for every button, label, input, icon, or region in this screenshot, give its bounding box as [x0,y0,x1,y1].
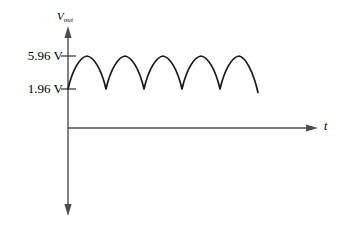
figure-canvas [0,0,347,233]
y-axis-arrowhead-up-icon [64,26,71,38]
y-axis-label: Vout [57,11,73,24]
y-axis-group [64,26,71,216]
ripple-waveform-path [68,56,258,93]
y-axis-label-main: V [57,10,64,22]
y-axis-arrowhead-down-icon [64,204,71,216]
rectifier-output-waveform-figure: Vout t 5.96 V 1.96 V [0,0,347,233]
x-axis-group [68,124,318,131]
x-axis-label: t [324,120,327,132]
tick-label-peak-voltage: 5.96 V [10,49,63,62]
tick-label-valley-voltage: 1.96 V [10,82,63,95]
x-axis-arrowhead-right-icon [306,124,318,131]
y-axis-label-subscript: out [64,16,73,24]
